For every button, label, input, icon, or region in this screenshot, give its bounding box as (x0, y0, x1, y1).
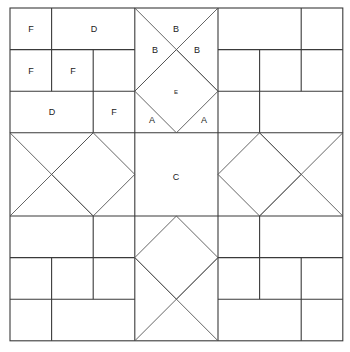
bottom-center-section (135, 216, 218, 341)
piece-label-tc-a-left: A (149, 115, 155, 125)
piece-label-tl-f1: F (28, 24, 34, 34)
piece-label-tl-d2: D (49, 107, 56, 117)
piece-label-tc-a-right: A (201, 115, 207, 125)
piece-label-tl-f4: F (111, 107, 117, 117)
top-right-section (218, 8, 343, 133)
piece-label-center-c: C (173, 172, 180, 182)
piece-label-tl-d1: D (91, 24, 98, 34)
piece-label-tl-f2: F (28, 66, 34, 76)
piece-label-tc-b-left: B (152, 45, 158, 55)
piece-label-tc-b-right: B (194, 45, 200, 55)
middle-right-section (218, 133, 343, 216)
piece-label-tl-f3: F (70, 66, 76, 76)
piece-label-tc-e: E (174, 89, 178, 95)
piece-label-tc-b-top: B (173, 24, 179, 34)
bottom-right-section (218, 216, 343, 341)
bottom-left-section (10, 216, 135, 341)
middle-left-section (10, 133, 135, 216)
